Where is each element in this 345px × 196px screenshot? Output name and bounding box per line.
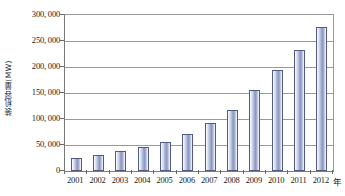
x-axis-tick — [310, 170, 311, 174]
x-axis-tick-label: 2005 — [156, 175, 172, 185]
x-axis-tick-label: 2008 — [223, 175, 239, 185]
bar[interactable] — [227, 110, 238, 171]
bar-slot — [221, 15, 243, 171]
x-axis-tick-label: 2004 — [134, 175, 150, 185]
y-axis-tick-label: 150, 000 — [32, 87, 60, 97]
x-axis-tick-label: 2003 — [112, 175, 128, 185]
x-axis-tick — [64, 170, 65, 174]
x-axis-tick-label: 2009 — [246, 175, 262, 185]
x-axis-tick-label: 2006 — [179, 175, 195, 185]
y-axis-tick-label: 100, 000 — [32, 113, 60, 123]
x-axis-tick-label: 2002 — [89, 175, 105, 185]
bar-slot — [288, 15, 310, 171]
x-axis-tick — [265, 170, 266, 174]
x-axis-tick — [109, 170, 110, 174]
bar-slot — [154, 15, 176, 171]
x-axis-tick-labels: 2001200220032004200520062007200820092010… — [64, 175, 334, 191]
plot-area — [64, 14, 334, 172]
bar-slot — [244, 15, 266, 171]
x-axis-tick — [86, 170, 87, 174]
bar-slot — [65, 15, 87, 171]
y-axis-tick-label: 300, 000 — [32, 9, 60, 19]
bar-slot — [87, 15, 109, 171]
bar-slot — [132, 15, 154, 171]
x-axis-ticks — [64, 170, 334, 174]
x-axis-tick-label: 2011 — [291, 175, 307, 185]
x-axis-tick — [332, 170, 333, 174]
x-axis-tick-label: 2010 — [268, 175, 284, 185]
bar[interactable] — [138, 147, 149, 171]
bar[interactable] — [182, 134, 193, 171]
bar[interactable] — [294, 50, 305, 171]
bar-slot — [199, 15, 221, 171]
x-axis-tick — [176, 170, 177, 174]
y-axis-title-label: 装机容量(MW) — [5, 60, 13, 116]
bar-slot — [266, 15, 288, 171]
y-axis-tick-label: 200, 000 — [32, 61, 60, 71]
bar[interactable] — [249, 90, 260, 171]
bar[interactable] — [272, 70, 283, 171]
bar-slot — [177, 15, 199, 171]
bar[interactable] — [160, 142, 171, 171]
y-axis-tick-label: 250, 000 — [32, 35, 60, 45]
bar-slot — [311, 15, 333, 171]
bar-chart: 装机容量(MW) 300, 000250, 000200, 000150, 00… — [0, 0, 345, 196]
x-axis-tick-label: 2007 — [201, 175, 217, 185]
bar-slot — [110, 15, 132, 171]
x-axis-tick — [198, 170, 199, 174]
x-axis-unit-label: 年 — [333, 175, 342, 187]
y-axis-tick-labels: 300, 000250, 000200, 000150, 000100, 000… — [14, 0, 62, 196]
x-axis-tick — [220, 170, 221, 174]
y-axis-tick-label: 50, 000 — [36, 139, 60, 149]
x-axis-tick — [287, 170, 288, 174]
x-axis-tick — [131, 170, 132, 174]
bar[interactable] — [115, 151, 126, 171]
bars-layer — [65, 15, 333, 171]
x-axis-tick — [243, 170, 244, 174]
bar[interactable] — [93, 155, 104, 171]
x-axis-tick-label: 2012 — [313, 175, 329, 185]
bar[interactable] — [316, 27, 327, 171]
bar[interactable] — [205, 123, 216, 171]
x-axis-tick — [153, 170, 154, 174]
x-axis-tick-label: 2001 — [67, 175, 83, 185]
